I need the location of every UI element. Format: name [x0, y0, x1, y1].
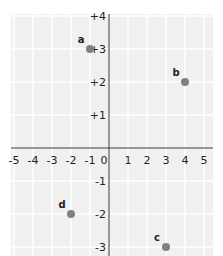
y-tick-label: -1 [95, 175, 106, 188]
point-label-c: c [154, 232, 160, 243]
x-tick-label: -5 [9, 154, 20, 167]
point-label-a: a [78, 34, 85, 45]
x-tick-label: 5 [201, 154, 208, 167]
y-tick-label: +2 [90, 76, 106, 89]
x-tick-label: -4 [28, 154, 39, 167]
x-tick-label: -3 [47, 154, 58, 167]
point-label-b: b [172, 67, 179, 78]
x-tick-label: 2 [144, 154, 151, 167]
y-tick-label: +4 [90, 10, 106, 23]
x-tick-label: 4 [182, 154, 189, 167]
x-tick-label: -1 [85, 154, 96, 167]
point-label-d: d [58, 199, 65, 210]
coordinate-plane-chart: -5-4-3-2-1012345+4+3+2+1-1-2-3abcd [0, 0, 223, 256]
data-point-c [162, 243, 170, 251]
plot-svg: -5-4-3-2-1012345+4+3+2+1-1-2-3abcd [0, 0, 223, 256]
y-tick-label: +1 [90, 109, 106, 122]
x-tick-label: 0 [101, 154, 108, 167]
x-tick-label: 1 [125, 154, 132, 167]
y-tick-label: -3 [95, 241, 106, 254]
data-point-d [67, 210, 75, 218]
y-tick-label: -2 [95, 208, 106, 221]
data-point-a [86, 45, 94, 53]
x-tick-label: -2 [66, 154, 77, 167]
x-tick-label: 3 [163, 154, 170, 167]
plot-background [11, 14, 213, 256]
data-point-b [181, 78, 189, 86]
